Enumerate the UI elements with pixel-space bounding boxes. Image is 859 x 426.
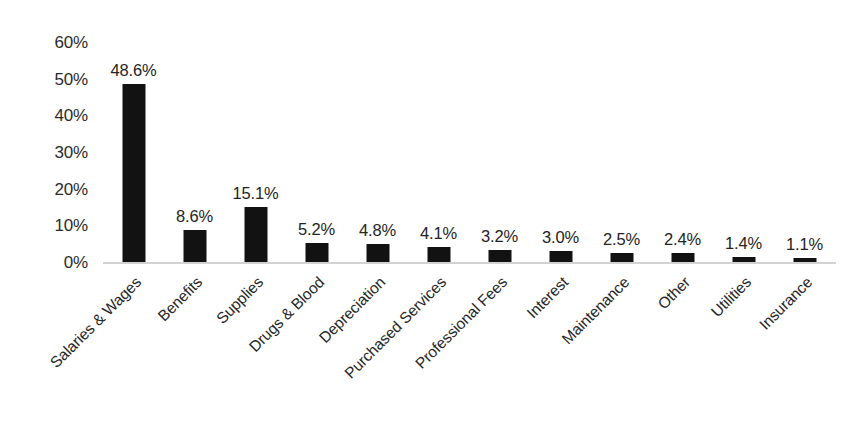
x-tick-label-slot: Other [652,268,713,388]
x-tick-label-slot: Benefits [164,268,225,388]
bar-chart: 60%50%40%30%20%10%0% 48.6%8.6%15.1%5.2%4… [0,0,859,426]
x-tick-label-slot: Maintenance [591,268,652,388]
x-tick-label-slot: Salaries & Wages [103,268,164,388]
x-axis-labels: Salaries & WagesBenefitsSuppliesDrugs & … [0,0,859,426]
x-tick-label-slot: Insurance [774,268,835,388]
x-tick-label-slot: Professional Fees [469,268,530,388]
